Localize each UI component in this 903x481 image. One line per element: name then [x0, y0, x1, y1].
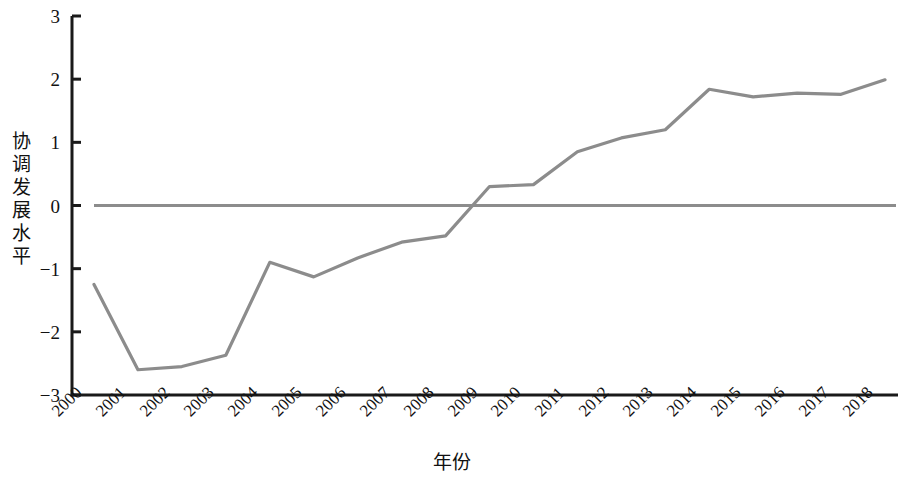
line-chart: 协 调 发 展 水 平 3210−1−2−3 20002001200220032…: [0, 0, 903, 481]
x-axis-title: 年份: [0, 452, 903, 474]
data-line-series: [94, 80, 885, 370]
